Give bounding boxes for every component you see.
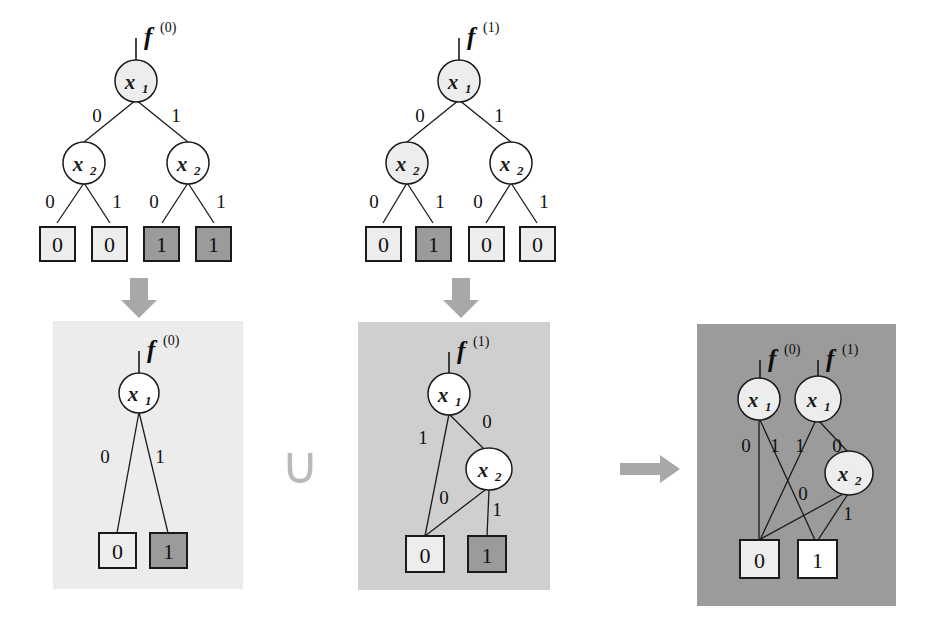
down-arrow-icon <box>443 278 479 318</box>
tree-f1-edge-l-1 <box>407 183 433 223</box>
panel2-node-x1-f0-sub: 1 <box>765 399 772 414</box>
panel0-function-superscript: (0) <box>163 333 180 349</box>
tree-f0-terminal-2-value: 1 <box>156 232 167 257</box>
panel1-node-x2 <box>466 448 512 490</box>
right-arrow-merge <box>620 455 680 483</box>
tree-f1-edge-label-root-1: 1 <box>494 105 504 126</box>
tree-f1-node-root-var: x <box>447 70 459 94</box>
tree-f0-node-root-var: x <box>124 70 136 94</box>
tree-f1-function-superscript: (1) <box>483 20 500 36</box>
tree-f0-node-r-sub: 2 <box>193 163 201 178</box>
tree-f0-terminal-1-value: 0 <box>104 232 115 257</box>
tree-f0-node-l <box>63 142 105 184</box>
tree-f0-node-r <box>167 142 209 184</box>
panel1-node-x1-var: x <box>437 383 449 407</box>
tree-f0-node-r-var: x <box>176 152 188 176</box>
panel2-node-x2-var: x <box>837 462 849 486</box>
tree-f0: f (0) 0 1 x 1 0 1 x 2 0 1 x <box>40 20 231 261</box>
panel2-terminal-0-value: 0 <box>754 548 765 573</box>
panel1-edge-label-x2-1: 1 <box>492 499 502 520</box>
tree-f1: f (1) 0 1 x 1 0 1 x 2 0 1 x 2 0 <box>366 20 555 261</box>
tree-f1-node-l-var: x <box>395 152 407 176</box>
panel1-edge-label-x2-0: 0 <box>439 487 449 508</box>
panel1-edge-label-x1-1: 1 <box>418 427 428 448</box>
tree-f0-terminal-0-value: 0 <box>52 232 63 257</box>
panel1-function-superscript: (1) <box>473 334 490 350</box>
tree-f0-node-l-sub: 2 <box>89 163 97 178</box>
tree-f0-edge-label-r-0: 0 <box>149 191 159 212</box>
tree-f0-terminal-3-value: 1 <box>208 232 219 257</box>
panel2-edge-label-x2-1: 1 <box>843 503 853 524</box>
tree-f0-function-superscript: (0) <box>160 20 177 36</box>
tree-f0-edge-r-1 <box>188 183 214 223</box>
tree-f0-edge-label-l-1: 1 <box>112 191 122 212</box>
panel2-node-x1-f0 <box>738 378 780 420</box>
panel2-node-x1-f1 <box>795 376 841 422</box>
tree-f1-function-label: f <box>467 23 478 50</box>
panel-bg-bdd-f1 <box>358 322 550 590</box>
panel0-terminal-1-value: 1 <box>163 539 174 564</box>
panel1-terminal-0-value: 0 <box>420 543 431 568</box>
panel0-node-x1-var: x <box>127 382 139 406</box>
panel2-edge-label-right-1: 1 <box>795 435 805 456</box>
panel0-terminal-0-value: 0 <box>112 539 123 564</box>
panel0-node-x1-sub: 1 <box>145 393 152 408</box>
panel1-node-x1 <box>428 373 470 415</box>
panel2-node-x1-f1-sub: 1 <box>824 399 831 414</box>
panel1-node-x1-sub: 1 <box>455 394 462 409</box>
tree-f1-edge-label-l-1: 1 <box>435 191 445 212</box>
tree-f1-edge-label-l-0: 0 <box>369 191 379 212</box>
tree-f1-terminal-0-value: 0 <box>378 232 389 257</box>
panel2-edge-label-left-0: 0 <box>741 435 751 456</box>
tree-f0-node-root-sub: 1 <box>142 81 149 96</box>
panel2-function-superscript-f0: (0) <box>784 342 801 358</box>
tree-f1-terminal-3-value: 0 <box>532 232 543 257</box>
panel2-terminal-1-value: 1 <box>812 548 823 573</box>
figure-canvas: f (0) 0 1 x 1 0 1 x 2 0 1 x <box>0 0 932 631</box>
tree-f0-edge-r-0 <box>162 183 188 223</box>
down-arrow-left <box>121 278 157 318</box>
tree-f1-node-r-var: x <box>499 152 511 176</box>
tree-f1-terminal-1-value: 1 <box>428 232 439 257</box>
panel2-node-x1-f1-var: x <box>806 388 818 412</box>
tree-f1-edge-r-0 <box>486 183 511 223</box>
panel0-edge-label-1: 1 <box>155 446 165 467</box>
panel2-node-x1-f0-var: x <box>747 388 759 412</box>
panel1-node-x2-var: x <box>477 458 489 482</box>
tree-f1-node-root-sub: 1 <box>465 81 472 96</box>
panel0-node-x1 <box>119 373 159 413</box>
tree-f1-edge-r-1 <box>511 183 537 223</box>
down-arrow-right <box>443 278 479 318</box>
panel2-node-x2 <box>825 451 873 495</box>
panel1-terminal-1-value: 1 <box>482 543 493 568</box>
panel2-edge-label-x2-0: 0 <box>798 483 808 504</box>
panel2-edge-label-left-1: 1 <box>770 435 780 456</box>
panel0-edge-label-0: 0 <box>100 446 110 467</box>
tree-f0-edge-l-1 <box>84 183 110 223</box>
panel1-node-x2-sub: 2 <box>494 469 502 484</box>
tree-f1-edge-label-r-0: 0 <box>473 191 483 212</box>
right-arrow-icon <box>620 455 680 483</box>
tree-f1-node-l <box>386 142 428 184</box>
bdd-figure: f (0) 0 1 x 1 0 1 x 2 0 1 x <box>0 0 932 631</box>
tree-f0-edge-label-r-1: 1 <box>216 191 226 212</box>
tree-f0-function-label: f <box>144 23 155 50</box>
panel2-node-x2-sub: 2 <box>854 473 862 488</box>
tree-f1-node-root <box>438 60 480 102</box>
union-operator-symbol: ∪ <box>281 437 319 494</box>
tree-f1-terminal-2-value: 0 <box>481 232 492 257</box>
panel2-function-superscript-f1: (1) <box>842 342 859 358</box>
tree-f0-node-l-var: x <box>72 152 84 176</box>
tree-f1-node-r <box>490 142 532 184</box>
tree-f1-node-l-sub: 2 <box>412 163 420 178</box>
tree-f1-edge-label-r-1: 1 <box>539 191 549 212</box>
tree-f0-edge-label-l-0: 0 <box>45 191 55 212</box>
tree-f1-node-r-sub: 2 <box>516 163 524 178</box>
down-arrow-icon <box>121 278 157 318</box>
tree-f0-node-root <box>115 60 157 102</box>
tree-f0-edge-label-root-1: 1 <box>171 105 181 126</box>
panel1-edge-label-x1-0: 0 <box>482 411 492 432</box>
tree-f1-edge-l-0 <box>383 183 407 223</box>
tree-f0-edge-label-root-0: 0 <box>92 105 102 126</box>
tree-f1-edge-label-root-0: 0 <box>415 105 425 126</box>
